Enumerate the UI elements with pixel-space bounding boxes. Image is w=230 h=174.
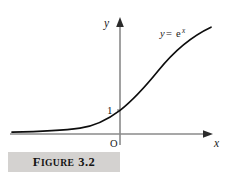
exponential-function-graph: y x 1 O y = e x (0, 0, 230, 174)
figure-page: y x 1 O y = e x FIGURE3.2 (0, 0, 230, 174)
curve-label-equals: = (166, 28, 172, 39)
curve-label-exponent: x (181, 27, 186, 35)
origin-label: O (110, 138, 118, 149)
caption-word-rest: IGURE (41, 157, 74, 168)
exponential-curve (12, 27, 211, 132)
y-axis-label: y (103, 17, 110, 30)
figure-caption: FIGURE3.2 (8, 152, 120, 172)
x-axis-arrowhead (203, 130, 213, 138)
y-axis-arrowhead (116, 17, 124, 27)
curve-label: y = e x (159, 27, 186, 40)
curve-label-variable: y (159, 28, 165, 39)
curve-label-base: e (176, 28, 181, 39)
caption-number: 3.2 (78, 155, 95, 170)
x-axis-label: x (213, 137, 220, 149)
y-axis-tick-label: 1 (107, 104, 113, 116)
caption-first-letter: F (33, 155, 41, 170)
